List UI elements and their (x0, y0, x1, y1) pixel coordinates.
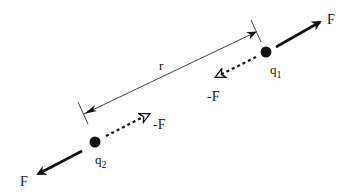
force-label: -F (153, 117, 166, 132)
charge-q1-label: q1 (270, 62, 282, 80)
charge-q2-dot (90, 137, 101, 148)
distance-arrowhead-left-icon (84, 105, 97, 114)
force-label: -F (207, 89, 220, 104)
dashed-force-arrow-icon (106, 114, 149, 136)
force-negf-on-q1: -F (207, 57, 256, 104)
coulomb-force-diagram: r q1 F -F q2 F -F (0, 0, 356, 194)
charge-q2-label: q2 (95, 152, 107, 170)
force-label: F (327, 12, 335, 27)
force-label: F (20, 174, 28, 189)
force-f-on-q1: F (276, 12, 335, 47)
dashed-force-arrow-icon (216, 57, 256, 77)
distance-r-indicator: r (78, 20, 261, 124)
distance-line (84, 32, 256, 114)
force-arrow-icon (276, 22, 320, 47)
force-arrow-icon (38, 151, 82, 174)
charge-q2: q2 (90, 137, 107, 171)
charge-q1: q1 (261, 47, 282, 81)
distance-tick-right (251, 20, 261, 42)
distance-label: r (159, 58, 164, 73)
charge-q1-dot (261, 47, 272, 58)
force-negf-on-q2: -F (106, 114, 166, 136)
force-f-on-q2: F (20, 151, 82, 189)
